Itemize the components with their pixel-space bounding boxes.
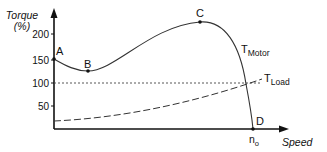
point-d [251,127,255,131]
x-tick-n0: no [249,133,259,148]
y-tick-50: 50 [38,101,50,112]
torque-speed-diagram: 200 150 100 50 Torque (%) Speed no A B C… [0,0,327,152]
load-torque-curve [54,79,262,121]
y-axis-arrow-icon [51,8,58,18]
point-a [52,57,56,61]
point-a-label: A [56,45,64,57]
load-torque-label: TLoad [264,72,290,87]
y-tick-200: 200 [32,29,49,40]
point-c [198,20,202,24]
motor-torque-label: TMotor [241,43,270,58]
x-axis-arrow-icon [279,126,289,133]
point-c-label: C [196,7,204,19]
motor-torque-curve [54,22,253,129]
point-b-label: B [84,58,91,70]
y-axis-unit: (%) [14,20,30,32]
y-tick-100: 100 [32,78,49,89]
x-axis-title: Speed [282,136,314,148]
y-tick-150: 150 [32,55,49,66]
point-d-label: D [256,115,264,127]
